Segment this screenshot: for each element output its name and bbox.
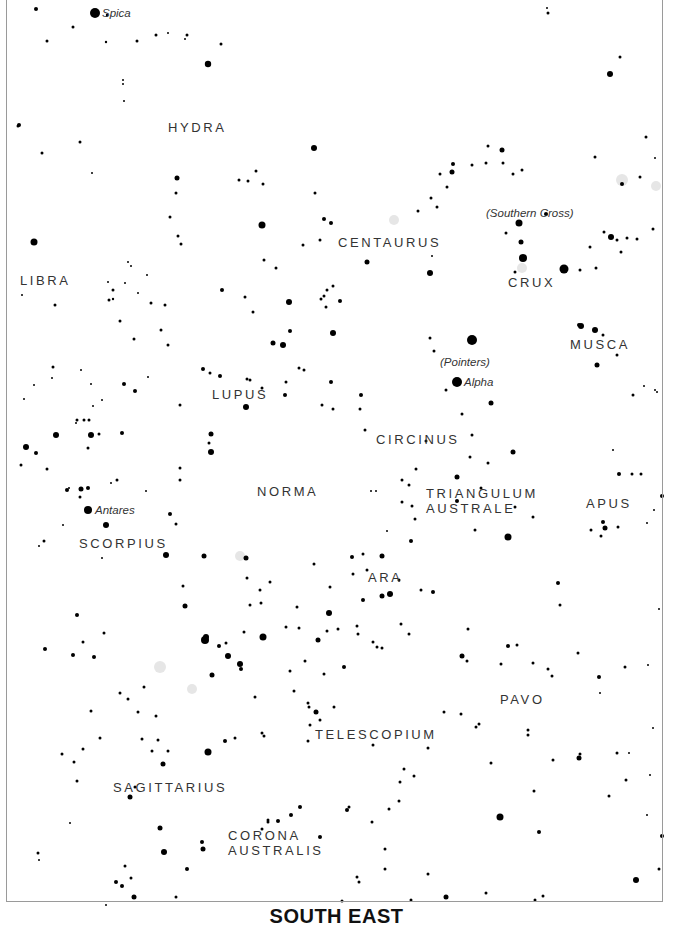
star-icon (469, 456, 472, 459)
constellation-label: CIRCINUS (376, 432, 460, 447)
star-icon (460, 654, 465, 659)
star-icon (119, 320, 122, 323)
star-icon (53, 432, 59, 438)
star-icon (124, 282, 126, 284)
star-icon (177, 235, 180, 238)
star-icon (298, 805, 302, 809)
star-icon (82, 641, 85, 644)
constellation-label: HYDRA (168, 120, 227, 135)
star-icon (280, 342, 286, 348)
constellation-label: CRUX (508, 275, 555, 290)
star-icon (122, 382, 126, 386)
star-icon (267, 821, 270, 824)
star-icon (628, 752, 630, 754)
star-icon (320, 298, 323, 301)
star-icon (341, 900, 344, 903)
star-icon (516, 220, 523, 227)
star-icon (298, 627, 301, 630)
star-icon (455, 475, 460, 480)
star-icon (244, 296, 247, 299)
star-icon (430, 197, 433, 200)
nebula-icon (517, 263, 527, 273)
constellation-label: TELESCOPIUM (315, 727, 437, 742)
star-icon (547, 12, 550, 15)
star-icon (656, 391, 658, 393)
star-icon (547, 668, 550, 671)
star-icon (220, 288, 224, 292)
star-icon (110, 482, 112, 484)
star-icon (88, 419, 91, 422)
star-icon (478, 723, 481, 726)
star-icon (364, 429, 367, 432)
star-icon (607, 71, 613, 77)
constellation-label: TRIANGULUM AUSTRALE (426, 486, 538, 516)
star-icon (323, 673, 326, 676)
star-icon (225, 653, 231, 659)
star-icon (490, 762, 493, 765)
star-icon (208, 442, 211, 445)
star-icon (345, 808, 349, 812)
star-icon (590, 529, 593, 532)
star-icon (155, 715, 158, 718)
star-icon (552, 759, 555, 762)
star-icon (527, 729, 530, 732)
constellation-label: ARA (368, 570, 403, 585)
star-icon (556, 581, 560, 585)
star-icon (182, 585, 185, 588)
star-icon (168, 512, 172, 516)
star-icon (205, 749, 212, 756)
star-icon (175, 176, 180, 181)
star-icon (431, 255, 433, 257)
star-icon (461, 413, 464, 416)
star-icon (411, 505, 414, 508)
star-icon (365, 260, 370, 265)
star-icon (158, 826, 163, 831)
star-icon (595, 363, 600, 368)
star-icon (112, 289, 115, 292)
star-icon (80, 369, 82, 371)
star-icon (398, 800, 401, 803)
star-icon (151, 750, 154, 753)
star-icon (234, 737, 237, 740)
star-icon (631, 473, 634, 476)
star-icon (500, 148, 505, 153)
nebula-icon (651, 181, 661, 191)
star-icon (99, 737, 102, 740)
star-icon (21, 294, 23, 296)
constellation-label: LUPUS (212, 387, 268, 402)
star-icon (597, 675, 601, 679)
star-icon (533, 790, 536, 793)
star-name-label: (Southern Cross) (486, 207, 574, 220)
star-icon (175, 896, 178, 899)
star-icon (600, 535, 603, 538)
star-icon (400, 623, 403, 626)
star-icon (603, 231, 606, 234)
star-name-label: (Pointers) (440, 356, 490, 369)
star-icon (276, 819, 280, 823)
star-icon (370, 490, 372, 492)
star-icon (652, 228, 655, 231)
star-icon (361, 598, 365, 602)
star-icon (408, 633, 411, 636)
star-icon (201, 847, 206, 852)
star-icon (489, 401, 494, 406)
star-icon (91, 172, 93, 174)
star-icon (137, 711, 140, 714)
star-icon (414, 518, 417, 521)
star-icon (62, 524, 64, 526)
star-icon (86, 486, 90, 490)
star-name-label: Antares (95, 504, 135, 517)
star-icon (620, 251, 623, 254)
star-icon (37, 852, 40, 855)
star-icon (321, 404, 324, 407)
star-icon (83, 419, 86, 422)
star-icon (505, 232, 508, 235)
star-icon (594, 156, 597, 159)
star-icon (410, 899, 413, 902)
star-icon (283, 393, 287, 397)
star-icon (262, 183, 265, 186)
star-icon (516, 644, 519, 647)
star-icon (20, 464, 23, 467)
star-icon (640, 473, 643, 476)
